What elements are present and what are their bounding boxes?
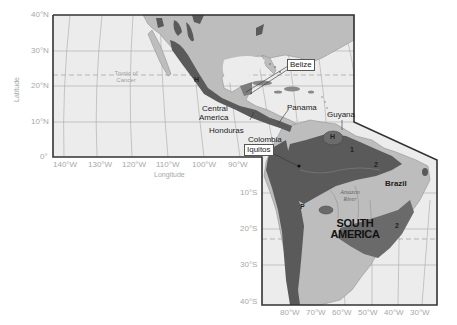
lon-tick-130w: 130°W	[88, 160, 112, 169]
lat-tick-20n: 20°N	[31, 81, 49, 90]
panama-label: Panama	[287, 103, 317, 112]
lon-tick-140w: 140°W	[53, 160, 77, 169]
lat-tick-10s: 10°S	[240, 188, 257, 197]
tropic-of-cancer-label: Tropic of Cancer	[106, 70, 146, 84]
region-letter-andes: P	[300, 203, 305, 210]
lat-tick-10n: 10°N	[31, 117, 49, 126]
lon-tick-120w: 120°W	[122, 160, 146, 169]
iquitos-label: Iquitos	[244, 144, 274, 156]
belize-label: Belize	[287, 59, 315, 71]
longitude-axis-title: Longitude	[154, 171, 185, 178]
lon-tick-90w: 90°W	[228, 160, 248, 169]
latitude-axis-title: Latitude	[13, 77, 20, 102]
region-letter-amazon: 1	[350, 146, 354, 153]
region-letter-atlantic: 2	[395, 222, 399, 229]
lat-tick-30s: 30°S	[240, 260, 257, 269]
lat-tick-40s: 40°S	[240, 297, 257, 306]
lat-tick-20s: 20°S	[240, 224, 257, 233]
lon-tick-30w: 30°W	[410, 308, 430, 317]
region-letter-guiana: H	[330, 133, 335, 140]
colombia-label: Colombia	[248, 135, 282, 144]
lon-tick-60w: 60°W	[332, 308, 352, 317]
lon-tick-50w: 50°W	[358, 308, 378, 317]
brazil-label: Brazil	[385, 179, 407, 188]
lon-tick-110w: 110°W	[156, 160, 180, 169]
guyana-label: Guyana	[327, 110, 355, 119]
lon-tick-100w: 100°W	[192, 160, 216, 169]
lon-tick-70w: 70°W	[306, 308, 326, 317]
central-america-label: Central America	[199, 104, 228, 122]
south-america-label: SOUTH AMERICA	[325, 218, 385, 240]
amazon-river-label: Amazon River	[330, 189, 370, 203]
lat-tick-40n: 40°N	[31, 10, 49, 19]
lon-tick-80w: 80°W	[280, 308, 300, 317]
honduras-label: Honduras	[209, 126, 244, 135]
lat-tick-0: 0°	[40, 152, 48, 161]
region-letter-mexico: H	[194, 76, 199, 83]
lat-tick-30n: 30°N	[31, 46, 49, 55]
region-letter-east-amazon: 2	[374, 161, 378, 168]
lon-tick-40w: 40°W	[384, 308, 404, 317]
